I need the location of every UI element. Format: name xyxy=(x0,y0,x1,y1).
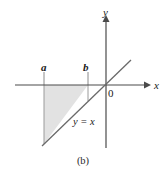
curve-label-y-equals-x: y = x xyxy=(73,117,95,128)
figure-caption: (b) xyxy=(0,156,166,167)
x-axis-arrowhead xyxy=(144,82,151,89)
point-label-a: a xyxy=(41,62,47,73)
x-axis-label: x xyxy=(154,80,159,91)
shaded-region xyxy=(44,85,88,144)
y-axis-label: y xyxy=(103,7,108,18)
point-label-b: b xyxy=(83,62,89,73)
origin-label: 0 xyxy=(108,88,114,99)
figure-container: y x a b 0 y = x (b) xyxy=(0,0,166,176)
coordinate-plot xyxy=(0,0,166,176)
